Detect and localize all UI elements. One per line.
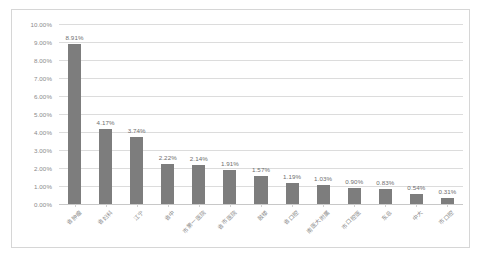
bar-value-label: 2.22%	[159, 154, 177, 161]
bar[interactable]	[286, 183, 299, 204]
bar[interactable]	[130, 137, 143, 204]
y-axis-tick-label: 2.00%	[34, 165, 52, 172]
x-axis-tick-label: 省肿瘤	[65, 208, 84, 227]
bar-column[interactable]	[379, 24, 392, 204]
chart-container: 10.00%9.00%8.00%7.00%6.00%5.00%4.00%3.00…	[11, 9, 470, 248]
bar[interactable]	[348, 188, 361, 204]
bar-value-label: 0.83%	[376, 179, 394, 186]
bar-column[interactable]	[161, 24, 174, 204]
x-axis-tick-label: 南医大附属	[305, 208, 332, 235]
bar-column[interactable]	[192, 24, 205, 204]
bar-column[interactable]	[254, 24, 267, 204]
bar-value-label: 3.74%	[128, 127, 146, 134]
bar[interactable]	[254, 176, 267, 204]
x-axis-tick-mark	[354, 204, 355, 207]
bar-value-label: 0.54%	[407, 184, 425, 191]
x-axis-tick-mark	[292, 204, 293, 207]
x-axis-tick-mark	[323, 204, 324, 207]
x-axis-tick-label: 中大	[411, 208, 425, 222]
x-axis-tick-label: 市口腔	[438, 208, 457, 227]
bar-column[interactable]	[441, 24, 454, 204]
x-axis-tick-mark	[230, 204, 231, 207]
y-axis-tick-label: 6.00%	[34, 93, 52, 100]
x-axis-tick-label: 省中	[162, 208, 176, 222]
bar-value-label: 1.03%	[314, 175, 332, 182]
y-axis-tick-label: 5.00%	[34, 111, 52, 118]
bar[interactable]	[192, 165, 205, 204]
x-axis-tick-label: 市口腔医	[340, 208, 363, 231]
bar[interactable]	[68, 44, 81, 204]
x-axis-tick-label: 省市医院	[216, 208, 239, 231]
x-axis-tick-mark	[199, 204, 200, 207]
bar[interactable]	[223, 170, 236, 204]
bar-column[interactable]	[410, 24, 423, 204]
x-axis-tick-mark	[385, 204, 386, 207]
bar-value-label: 1.91%	[221, 160, 239, 167]
y-axis-tick-label: 0.00%	[34, 201, 52, 208]
bar[interactable]	[410, 194, 423, 204]
bar-value-label: 2.14%	[190, 155, 208, 162]
x-axis-tick-label: 鼓楼	[255, 208, 269, 222]
x-axis-tick-label: 市第一医院	[180, 208, 207, 235]
bar[interactable]	[161, 164, 174, 204]
x-axis-tick-mark	[75, 204, 76, 207]
y-axis-tick-label: 10.00%	[30, 21, 52, 28]
y-axis-tick-label: 3.00%	[34, 147, 52, 154]
bar-column[interactable]	[223, 24, 236, 204]
bar[interactable]	[379, 189, 392, 204]
bar-value-label: 0.31%	[438, 188, 456, 195]
x-axis-tick-mark	[137, 204, 138, 207]
bar-column[interactable]	[99, 24, 112, 204]
x-axis-tick-mark	[261, 204, 262, 207]
x-axis-tick-label: 省妇科	[96, 208, 115, 227]
bar-column[interactable]	[68, 24, 81, 204]
y-axis-tick-label: 1.00%	[34, 183, 52, 190]
x-axis-tick-mark	[106, 204, 107, 207]
y-axis-tick-label: 7.00%	[34, 75, 52, 82]
y-axis-tick-label: 8.00%	[34, 57, 52, 64]
bar-value-label: 8.91%	[66, 34, 84, 41]
x-axis-tick-label: 省口腔	[282, 208, 301, 227]
bar[interactable]	[99, 129, 112, 204]
y-axis-tick-label: 9.00%	[34, 39, 52, 46]
plot-area: 8.91%4.17%3.74%2.22%2.14%1.91%1.57%1.19%…	[59, 24, 463, 204]
bar[interactable]	[317, 185, 330, 204]
x-axis-tick-mark	[168, 204, 169, 207]
bar-value-label: 1.19%	[283, 173, 301, 180]
bar-value-label: 4.17%	[97, 119, 115, 126]
bar-column[interactable]	[130, 24, 143, 204]
x-axis-tick-label: 江宁	[131, 208, 145, 222]
y-axis: 10.00%9.00%8.00%7.00%6.00%5.00%4.00%3.00…	[12, 24, 56, 204]
x-axis-tick-label: 东总	[380, 208, 394, 222]
bar-value-label: 0.90%	[345, 178, 363, 185]
bar-value-label: 1.57%	[252, 166, 270, 173]
y-axis-tick-label: 4.00%	[34, 129, 52, 136]
x-axis-tick-mark	[416, 204, 417, 207]
x-axis-tick-mark	[447, 204, 448, 207]
